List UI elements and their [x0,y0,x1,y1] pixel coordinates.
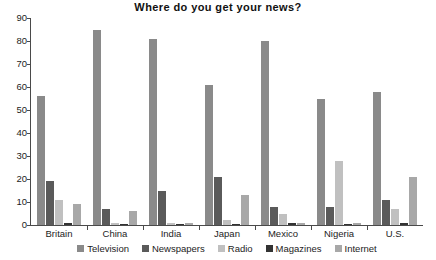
legend-item[interactable]: Newspapers [142,244,205,254]
bar [167,223,175,225]
x-axis-labels: BritainChinaIndiaJapanMexicoNigeriaU.S. [31,228,423,239]
bar-group-bars [311,18,367,225]
bar [176,224,184,225]
bar [373,92,381,225]
bar [120,224,128,225]
y-tick-label: 10 [16,197,27,207]
legend-item[interactable]: Internet [335,244,377,254]
x-tick-label: U.S. [367,228,423,239]
bar [270,207,278,225]
bar [279,214,287,226]
bar-group-bars [255,18,311,225]
bar-groups [31,18,423,225]
bar [37,96,45,225]
x-axis-line [31,225,423,226]
bar-group [143,18,199,225]
bar-group-bars [367,18,423,225]
x-tick-label: China [87,228,143,239]
legend-swatch-icon [218,245,225,252]
bar [149,39,157,225]
legend-item[interactable]: Radio [218,244,253,254]
bar [102,209,110,225]
bar [205,85,213,225]
bar [93,30,101,226]
bar [344,224,352,225]
legend-swatch-icon [266,245,273,252]
bar-group-bars [87,18,143,225]
bar [111,223,119,225]
bar [288,223,296,225]
y-tick-label: 40 [16,128,27,138]
x-tick-label: Mexico [255,228,311,239]
x-tick-label: Japan [199,228,255,239]
legend-swatch-icon [335,245,342,252]
chart-legend: TelevisionNewspapersRadioMagazinesIntern… [31,244,423,254]
legend-label: Television [87,244,129,254]
bar [158,191,166,226]
legend-item[interactable]: Magazines [266,244,322,254]
bar [335,161,343,225]
bar [232,224,240,225]
y-tick-label: 30 [16,151,27,161]
bar [64,223,72,225]
legend-label: Radio [228,244,253,254]
bar-group [87,18,143,225]
bar-group-bars [143,18,199,225]
y-tick-label: 80 [16,36,27,46]
bar-group [31,18,87,225]
bar [129,211,137,225]
bar [409,177,417,225]
bar [400,223,408,225]
bar-group [311,18,367,225]
bar [73,204,81,225]
bar [261,41,269,225]
bar-group [255,18,311,225]
plot-area: 0102030405060708090 [31,18,423,225]
bar [185,223,193,225]
bar [214,177,222,225]
legend-swatch-icon [142,245,149,252]
bar-group-bars [31,18,87,225]
legend-swatch-icon [77,245,84,252]
bar [46,181,54,225]
bar [223,220,231,225]
legend-item[interactable]: Television [77,244,129,254]
y-tick-label: 90 [16,13,27,23]
y-tick-mark [27,225,31,226]
bar [297,223,305,225]
y-tick-label: 50 [16,105,27,115]
y-tick-label: 60 [16,82,27,92]
legend-label: Magazines [276,244,322,254]
y-tick-label: 70 [16,59,27,69]
bar [353,223,361,225]
x-tick-label: Britain [31,228,87,239]
bar-group [367,18,423,225]
bar [241,195,249,225]
bar [55,200,63,225]
x-tick-label: India [143,228,199,239]
bar-group [199,18,255,225]
bar [326,207,334,225]
bar [382,200,390,225]
bar-group-bars [199,18,255,225]
bar [391,209,399,225]
y-tick-label: 20 [16,174,27,184]
news-sources-bar-chart: Where do you get your news? 010203040506… [0,0,436,260]
legend-label: Internet [345,244,377,254]
bar [317,99,325,226]
legend-label: Newspapers [152,244,205,254]
chart-title: Where do you get your news? [0,1,436,13]
x-tick-label: Nigeria [311,228,367,239]
